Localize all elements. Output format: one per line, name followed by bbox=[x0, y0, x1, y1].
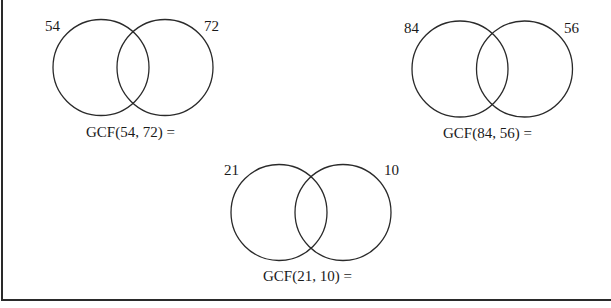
venn-diagram-3: 21 10 GCF(21, 10) = bbox=[224, 162, 399, 285]
venn-diagram-2: 84 56 GCF(84, 56) = bbox=[404, 20, 580, 142]
venn-2-left-label: 84 bbox=[404, 20, 420, 36]
venn-3-left-label: 21 bbox=[224, 162, 239, 178]
worksheet-canvas: 54 72 GCF(54, 72) = 84 56 GCF(84, 56) = … bbox=[0, 0, 611, 308]
venn-1-equation: GCF(54, 72) = bbox=[86, 124, 175, 141]
venn-1-right-label: 72 bbox=[204, 18, 219, 34]
venn-1-right-circle bbox=[117, 20, 213, 116]
venn-3-right-circle bbox=[295, 165, 391, 261]
venn-1-left-circle bbox=[53, 20, 149, 116]
venn-2-left-circle bbox=[412, 21, 508, 117]
venn-2-right-circle bbox=[477, 21, 573, 117]
venn-1-left-label: 54 bbox=[45, 18, 61, 34]
venn-3-equation: GCF(21, 10) = bbox=[263, 268, 352, 285]
venn-3-left-circle bbox=[231, 165, 327, 261]
venn-3-right-label: 10 bbox=[384, 162, 399, 178]
venn-2-right-label: 56 bbox=[564, 20, 580, 36]
venn-2-equation: GCF(84, 56) = bbox=[443, 125, 532, 142]
venn-diagram-1: 54 72 GCF(54, 72) = bbox=[45, 18, 219, 141]
